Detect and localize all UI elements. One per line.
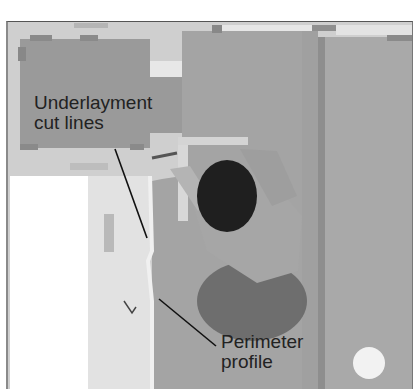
photo [6, 21, 413, 389]
callout-perimeter: Perimeter profile [221, 332, 303, 372]
callout-underlayment-line2: cut lines [34, 113, 152, 133]
photo-scene [8, 22, 413, 389]
callout-underlayment-line1: Underlayment [34, 93, 152, 113]
callout-perimeter-line1: Perimeter [221, 332, 303, 352]
callout-underlayment: Underlayment cut lines [34, 93, 152, 133]
callout-perimeter-line2: profile [221, 352, 303, 372]
